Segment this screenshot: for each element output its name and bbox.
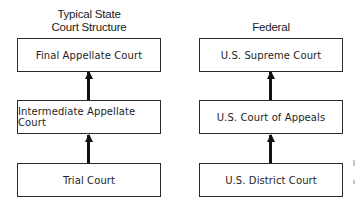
federal-supreme-court-box: U.S. Supreme Court bbox=[199, 38, 343, 72]
state-intermediate-appellate-court-label: Intermediate Appellate Court bbox=[18, 106, 160, 128]
state-trial-court-label: Trial Court bbox=[63, 175, 115, 186]
state-heading-line-1: Typical State bbox=[17, 8, 161, 21]
state-intermediate-appellate-court-box: Intermediate Appellate Court bbox=[17, 100, 161, 134]
arrow-district-to-appeals-icon bbox=[269, 135, 272, 163]
federal-column-heading: Federal bbox=[199, 21, 343, 34]
state-column-heading: Typical State Court Structure bbox=[17, 8, 161, 34]
scan-artifact bbox=[353, 160, 355, 166]
arrow-trial-to-intermediate-icon bbox=[87, 135, 90, 163]
federal-court-of-appeals-box: U.S. Court of Appeals bbox=[199, 100, 343, 134]
scan-artifact bbox=[353, 180, 355, 184]
federal-district-court-label: U.S. District Court bbox=[225, 175, 317, 186]
state-heading-line-2: Court Structure bbox=[17, 21, 161, 34]
federal-court-of-appeals-label: U.S. Court of Appeals bbox=[217, 112, 326, 123]
federal-heading-line-1: Federal bbox=[199, 21, 343, 34]
state-final-appellate-court-box: Final Appellate Court bbox=[17, 38, 161, 72]
arrow-intermediate-to-final-icon bbox=[87, 72, 90, 100]
state-final-appellate-court-label: Final Appellate Court bbox=[36, 50, 142, 61]
arrow-appeals-to-supreme-icon bbox=[269, 72, 272, 100]
federal-district-court-box: U.S. District Court bbox=[199, 163, 343, 197]
federal-supreme-court-label: U.S. Supreme Court bbox=[221, 50, 322, 61]
state-trial-court-box: Trial Court bbox=[17, 163, 161, 197]
